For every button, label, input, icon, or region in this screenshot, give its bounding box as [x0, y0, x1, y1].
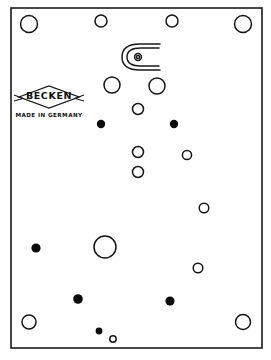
ring-top-second — [95, 15, 107, 27]
ring-center-bottom — [133, 167, 144, 178]
ring-right-mid — [199, 203, 209, 213]
ring-bottom-left-corner — [22, 315, 36, 329]
product-card-illustration: BECKEN MADE IN GERMANY — [0, 0, 271, 360]
clasp-eye-inner-ring — [136, 55, 139, 58]
ring-top-third — [166, 15, 178, 27]
ring-right-upper — [182, 150, 191, 159]
ring-right-lower — [193, 263, 203, 273]
ring-top-right-corner — [235, 16, 252, 33]
dot-upper-left — [97, 120, 105, 128]
ring-center-large — [94, 236, 116, 258]
ring-center-lower — [133, 147, 144, 158]
dot-upper-right — [170, 120, 178, 128]
brand-name-text: BECKEN — [26, 90, 72, 101]
ring-center-upper — [133, 104, 144, 115]
ring-top-left-corner — [21, 16, 38, 33]
ring-upper-left-mid — [104, 77, 120, 93]
dot-left-mid — [31, 243, 40, 252]
dot-lower-left — [73, 294, 83, 304]
dot-bottom-small — [96, 328, 103, 335]
ring-bottom-right-corner — [236, 315, 251, 330]
dot-lower-right — [165, 296, 174, 305]
screenshot-root: BECKEN MADE IN GERMANY — [0, 0, 271, 360]
ring-bottom-tiny — [110, 336, 116, 342]
country-of-origin-text: MADE IN GERMANY — [15, 112, 83, 118]
ring-upper-right-mid — [149, 78, 165, 94]
